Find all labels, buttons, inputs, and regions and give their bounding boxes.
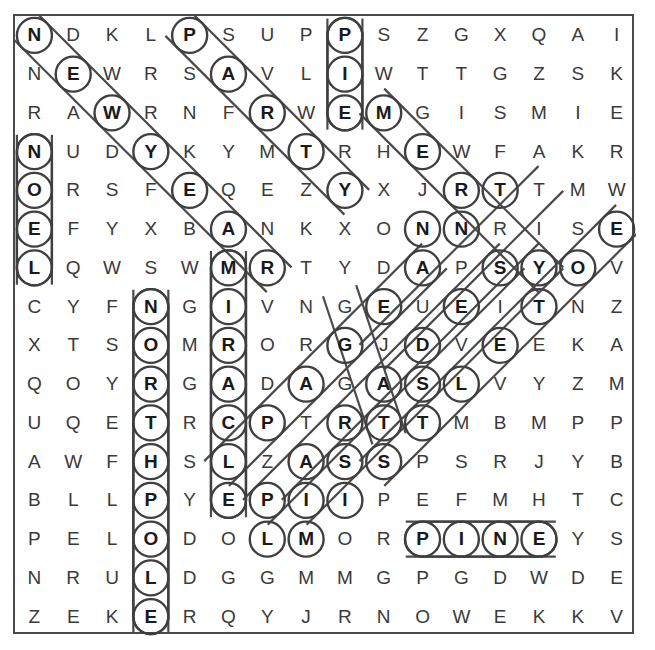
grid-cell[interactable]: B [170, 210, 209, 249]
grid-cell[interactable]: E [597, 559, 636, 598]
grid-cell[interactable]: Y [93, 365, 132, 404]
grid-cell[interactable]: Z [520, 55, 559, 94]
grid-cell[interactable]: Z [597, 287, 636, 326]
grid-cell[interactable]: K [558, 132, 597, 171]
grid-cell[interactable]: R [326, 597, 365, 636]
grid-cell[interactable]: S [364, 16, 403, 55]
grid-cell[interactable]: K [287, 210, 326, 249]
grid-cell[interactable]: R [248, 249, 287, 288]
grid-cell[interactable]: X [326, 210, 365, 249]
grid-cell[interactable]: M [520, 404, 559, 443]
grid-cell[interactable]: G [326, 365, 365, 404]
grid-cell[interactable]: F [481, 132, 520, 171]
grid-cell[interactable]: C [15, 287, 54, 326]
grid-cell[interactable]: Q [54, 249, 93, 288]
grid-cell[interactable]: O [209, 520, 248, 559]
grid-cell[interactable]: N [287, 287, 326, 326]
grid-cell[interactable]: L [287, 55, 326, 94]
grid-cell[interactable]: T [520, 287, 559, 326]
grid-cell[interactable]: Y [558, 520, 597, 559]
grid-cell[interactable]: H [131, 442, 170, 481]
grid-cell[interactable]: I [558, 94, 597, 133]
grid-cell[interactable]: K [597, 55, 636, 94]
grid-cell[interactable]: P [364, 481, 403, 520]
grid-cell[interactable]: T [287, 249, 326, 288]
grid-cell[interactable]: T [481, 171, 520, 210]
grid-cell[interactable]: F [93, 442, 132, 481]
grid-cell[interactable]: E [248, 171, 287, 210]
grid-cell[interactable]: T [558, 481, 597, 520]
grid-cell[interactable]: I [326, 55, 365, 94]
grid-cell[interactable]: S [597, 520, 636, 559]
grid-cell[interactable]: U [403, 287, 442, 326]
grid-cell[interactable]: I [209, 287, 248, 326]
grid-cell[interactable]: Y [326, 249, 365, 288]
grid-cell[interactable]: V [442, 326, 481, 365]
grid-cell[interactable]: W [520, 559, 559, 598]
grid-cell[interactable]: Q [54, 404, 93, 443]
grid-cell[interactable]: R [597, 132, 636, 171]
grid-cell[interactable]: V [248, 287, 287, 326]
grid-cell[interactable]: G [170, 365, 209, 404]
grid-cell[interactable]: V [597, 597, 636, 636]
grid-cell[interactable]: X [131, 210, 170, 249]
grid-cell[interactable]: D [54, 16, 93, 55]
grid-cell[interactable]: C [209, 404, 248, 443]
grid-cell[interactable]: E [403, 132, 442, 171]
grid-cell[interactable]: R [209, 326, 248, 365]
grid-cell[interactable]: R [364, 520, 403, 559]
grid-cell[interactable]: M [287, 559, 326, 598]
grid-cell[interactable]: E [209, 481, 248, 520]
grid-cell[interactable]: R [131, 55, 170, 94]
grid-cell[interactable]: Y [131, 132, 170, 171]
grid-cell[interactable]: Y [520, 365, 559, 404]
grid-cell[interactable]: N [15, 16, 54, 55]
grid-cell[interactable]: B [481, 404, 520, 443]
grid-cell[interactable]: E [54, 597, 93, 636]
grid-cell[interactable]: X [15, 326, 54, 365]
grid-cell[interactable]: U [93, 559, 132, 598]
grid-cell[interactable]: S [170, 442, 209, 481]
grid-cell[interactable]: P [403, 442, 442, 481]
grid-cell[interactable]: W [54, 442, 93, 481]
grid-cell[interactable]: G [170, 287, 209, 326]
grid-cell[interactable]: G [403, 94, 442, 133]
grid-cell[interactable]: P [15, 520, 54, 559]
grid-cell[interactable]: R [326, 132, 365, 171]
grid-cell[interactable]: G [326, 287, 365, 326]
grid-cell[interactable]: Q [209, 597, 248, 636]
grid-cell[interactable]: A [403, 249, 442, 288]
grid-cell[interactable]: N [364, 597, 403, 636]
grid-cell[interactable]: E [481, 597, 520, 636]
grid-cell[interactable]: S [93, 171, 132, 210]
grid-cell[interactable]: T [287, 132, 326, 171]
grid-cell[interactable]: U [54, 132, 93, 171]
grid-cell[interactable]: O [248, 326, 287, 365]
grid-cell[interactable]: L [54, 481, 93, 520]
grid-cell[interactable]: A [209, 365, 248, 404]
grid-cell[interactable]: E [93, 404, 132, 443]
grid-cell[interactable]: D [481, 559, 520, 598]
grid-cell[interactable]: G [364, 559, 403, 598]
grid-cell[interactable]: R [131, 365, 170, 404]
grid-cell[interactable]: Q [15, 365, 54, 404]
grid-cell[interactable]: Z [248, 442, 287, 481]
grid-cell[interactable]: P [442, 249, 481, 288]
grid-cell[interactable]: N [248, 210, 287, 249]
grid-cell[interactable]: H [364, 132, 403, 171]
grid-cell[interactable]: M [170, 326, 209, 365]
grid-cell[interactable]: E [597, 94, 636, 133]
grid-cell[interactable]: A [54, 94, 93, 133]
grid-cell[interactable]: N [15, 559, 54, 598]
grid-cell[interactable]: Y [326, 171, 365, 210]
grid-cell[interactable]: S [209, 16, 248, 55]
grid-cell[interactable]: A [364, 365, 403, 404]
grid-cell[interactable]: O [403, 597, 442, 636]
grid-cell[interactable]: W [93, 55, 132, 94]
grid-cell[interactable]: N [442, 210, 481, 249]
grid-cell[interactable]: R [131, 94, 170, 133]
grid-cell[interactable]: E [403, 481, 442, 520]
grid-cell[interactable]: G [442, 559, 481, 598]
grid-cell[interactable]: P [170, 16, 209, 55]
grid-cell[interactable]: A [287, 365, 326, 404]
